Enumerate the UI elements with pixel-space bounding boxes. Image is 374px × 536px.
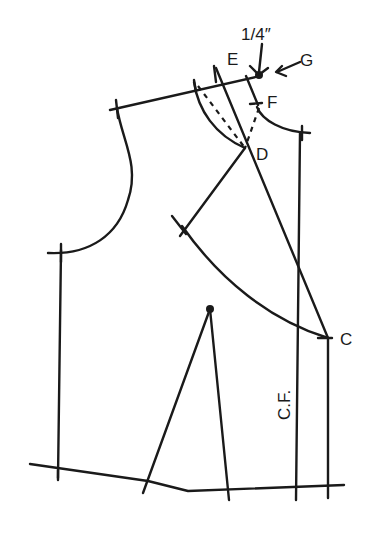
label-c: C [340,330,352,349]
measurement-arrowhead-1 [250,66,258,74]
label-g: G [300,51,313,70]
label-e: E [227,50,238,69]
label-f: F [267,93,277,112]
armhole-curve [48,108,132,253]
center-front-line [296,133,300,500]
dart-leg-left [143,309,210,493]
measurement-arrowhead-2 [260,68,268,74]
pattern-diagram: 1/4″ E G F D C C.F. [0,0,374,536]
new-neck-curve [194,82,245,148]
measurement-arrow [259,44,262,72]
f-tick [250,103,262,104]
dashed-guide-1 [198,86,245,148]
e-to-f-line [246,76,258,105]
bust-arc [182,226,328,338]
label-d: D [256,145,268,164]
dart-leg-right [210,309,229,500]
d-branch-line [180,148,245,236]
shoulder-line [110,76,260,110]
side-seam [58,250,61,478]
label-center-front: C.F. [275,390,294,420]
label-measurement: 1/4″ [241,25,271,44]
d-branch-tick [172,216,186,234]
